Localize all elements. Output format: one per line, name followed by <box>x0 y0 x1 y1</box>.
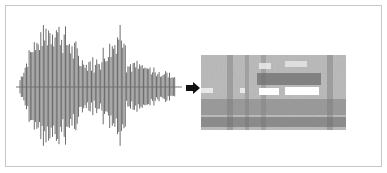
audio-waveform <box>16 20 182 155</box>
spectrogram <box>201 55 346 130</box>
arrow-right-icon <box>186 82 200 94</box>
